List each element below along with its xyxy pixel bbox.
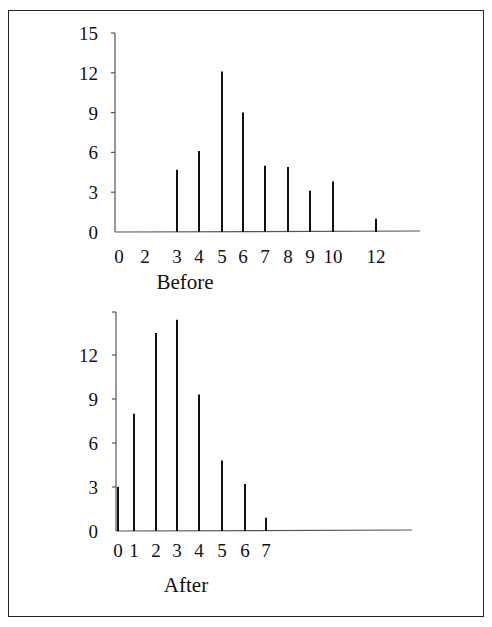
x-tick-label: 4 — [194, 540, 204, 561]
x-tick-label: 2 — [151, 540, 161, 561]
y-tick-label: 6 — [89, 433, 99, 454]
y-tick-label: 0 — [89, 222, 99, 243]
x-axis-line — [116, 530, 412, 531]
x-tick-label: 4 — [194, 246, 204, 267]
x-axis-line — [115, 231, 420, 232]
x-tick-label: 9 — [305, 246, 315, 267]
y-tick-label: 9 — [89, 389, 99, 410]
after-y-axis: 036912 — [79, 312, 116, 542]
y-tick-label: 12 — [79, 63, 98, 84]
x-tick-label: 12 — [367, 246, 386, 267]
x-tick-label: 3 — [172, 246, 182, 267]
x-tick-label: 10 — [324, 246, 343, 267]
y-tick-label: 6 — [89, 142, 99, 163]
y-tick-label: 0 — [89, 521, 99, 542]
x-tick-label: 5 — [217, 540, 227, 561]
before-chart: 03691215 0234567891012 Before — [79, 23, 420, 294]
before-bars — [177, 71, 376, 232]
x-tick-label: 0 — [114, 246, 124, 267]
x-tick-label: 8 — [283, 246, 293, 267]
x-tick-label: 5 — [217, 246, 227, 267]
y-tick-label: 15 — [79, 23, 98, 44]
x-tick-label: 6 — [238, 246, 248, 267]
x-tick-label: 1 — [129, 540, 139, 561]
after-x-axis: 01234567 — [113, 530, 412, 561]
x-tick-label: 6 — [240, 540, 250, 561]
x-tick-label: 7 — [260, 246, 270, 267]
y-tick-label: 9 — [89, 103, 99, 124]
before-chart-label: Before — [156, 270, 213, 294]
x-tick-label: 3 — [172, 540, 182, 561]
before-x-axis: 0234567891012 — [114, 231, 420, 267]
x-tick-label: 0 — [113, 540, 123, 561]
x-tick-label: 2 — [140, 246, 150, 267]
after-chart: 036912 01234567 After — [79, 312, 412, 597]
x-tick-label: 7 — [261, 540, 271, 561]
y-tick-label: 12 — [79, 345, 98, 366]
before-y-axis: 03691215 — [79, 23, 115, 243]
y-tick-label: 3 — [89, 477, 99, 498]
after-chart-label: After — [164, 573, 208, 597]
y-tick-label: 3 — [89, 182, 99, 203]
figure-canvas: 03691215 0234567891012 Before 036912 012… — [0, 0, 492, 627]
after-bars — [118, 320, 266, 531]
